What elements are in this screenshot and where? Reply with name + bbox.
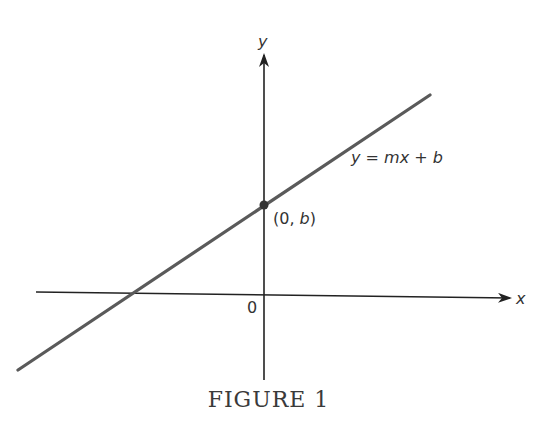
y-axis-label: y — [257, 32, 268, 51]
equation-b: b — [433, 148, 443, 167]
equation-mx: mx — [384, 148, 410, 167]
intercept-point-label: (0, b) — [273, 209, 316, 228]
point-label-b: b — [300, 209, 310, 228]
y-intercept-point — [260, 201, 269, 210]
origin-label: 0 — [247, 298, 257, 317]
equation-plus: + — [409, 148, 433, 167]
point-label-close: ) — [310, 209, 316, 228]
line-equation-label: y = mx + b — [350, 148, 443, 167]
equation-equals: = — [360, 148, 384, 167]
line-graph-figure: y x 0 y = mx + b (0, b) — [0, 0, 537, 425]
figure-caption: FIGURE 1 — [0, 387, 537, 412]
equation-y: y — [350, 148, 361, 167]
x-axis — [36, 292, 510, 298]
line-y-equals-mx-plus-b — [18, 95, 430, 370]
point-label-open: (0, — [273, 209, 300, 228]
x-axis-label: x — [515, 289, 526, 308]
